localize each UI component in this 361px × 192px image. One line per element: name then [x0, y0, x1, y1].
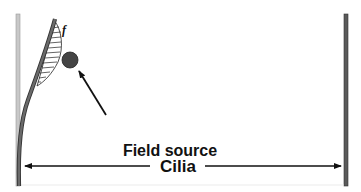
field-source-icon [62, 52, 78, 68]
force-label: f [62, 23, 67, 37]
cilia-field-diagram: f Field source Cilia [0, 0, 361, 192]
right-wall [344, 14, 348, 186]
force-profile [37, 20, 61, 86]
cilia-label: Cilia [160, 157, 196, 176]
bent-cilium [19, 19, 55, 186]
field-source-pointer-arrow [79, 71, 106, 115]
